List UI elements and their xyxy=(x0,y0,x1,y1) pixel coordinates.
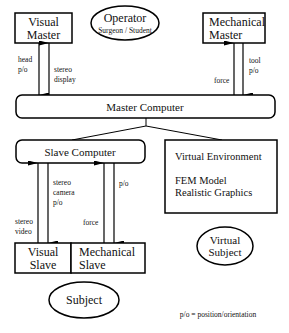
stereo-video-label-2: video xyxy=(15,227,32,236)
visual-master-label-1: Visual xyxy=(28,15,59,29)
subject-ellipse: Subject xyxy=(49,282,119,318)
po-slave-label: p/o xyxy=(119,179,129,188)
visual-slave-label-2: Slave xyxy=(30,258,57,272)
operator-title: Operator xyxy=(104,11,147,25)
master-to-virtual-line xyxy=(146,126,222,140)
slave-computer-label: Slave Computer xyxy=(44,146,116,158)
force-master-label: force xyxy=(214,76,230,85)
slave-computer-box: Slave Computer xyxy=(16,140,145,163)
mechanical-master-label-1: Mechanical xyxy=(209,15,266,29)
force-slave-label: force xyxy=(83,218,99,227)
teleoperation-diagram: Visual Master Operator Surgeon / Student… xyxy=(0,0,289,333)
stereo-display-label-2: display xyxy=(54,75,76,84)
head-po-label-1: head xyxy=(18,55,32,64)
stereo-camera-label-3: p/o xyxy=(53,198,63,207)
head-po-label-2: p/o xyxy=(18,65,28,74)
mechanical-master-label-2: Master xyxy=(209,28,242,42)
master-computer-box: Master Computer xyxy=(16,95,275,118)
virtual-environment-box: Virtual Environment FEM Model Realistic … xyxy=(165,140,277,213)
mechanical-slave-box: Mechanical Slave xyxy=(71,243,145,273)
mechanical-slave-label-1: Mechanical xyxy=(79,245,136,259)
visual-master-label-2: Master xyxy=(27,28,60,42)
legend-text: p/o = position/orientation xyxy=(180,310,257,319)
virtual-environment-line1: FEM Model xyxy=(175,175,227,186)
mechanical-slave-label-2: Slave xyxy=(79,258,106,272)
stereo-camera-label-1: stereo xyxy=(53,178,71,187)
virtual-environment-title: Virtual Environment xyxy=(175,151,262,162)
subject-label: Subject xyxy=(66,293,103,307)
tool-po-label-1: tool xyxy=(249,56,261,65)
virtual-subject-label-2: Subject xyxy=(209,246,242,258)
stereo-display-label-1: stereo xyxy=(54,65,72,74)
mechanical-master-box: Mechanical Master xyxy=(203,13,266,43)
virtual-subject-ellipse: Virtual Subject xyxy=(197,227,253,265)
visual-master-box: Visual Master xyxy=(15,13,72,43)
operator-ellipse: Operator Surgeon / Student xyxy=(91,6,159,40)
virtual-subject-label-1: Virtual xyxy=(210,234,241,246)
stereo-camera-label-2: camera xyxy=(53,188,75,197)
master-computer-label: Master Computer xyxy=(106,101,184,113)
stereo-video-label-1: stereo xyxy=(15,217,33,226)
master-to-slave-line xyxy=(72,126,146,140)
tool-po-label-2: p/o xyxy=(249,66,259,75)
visual-slave-box: Visual Slave xyxy=(15,243,71,273)
visual-slave-label-1: Visual xyxy=(28,245,59,259)
virtual-environment-line2: Realistic Graphics xyxy=(175,187,252,198)
operator-subtitle: Surgeon / Student xyxy=(98,26,153,35)
